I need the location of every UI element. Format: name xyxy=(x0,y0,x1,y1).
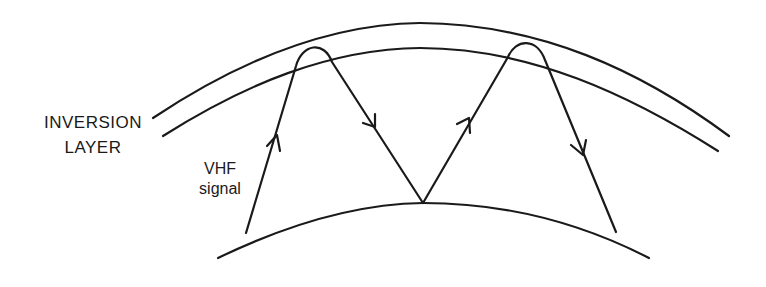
inversion-layer-lower-boundary xyxy=(163,48,718,151)
signal-label-line2: signal xyxy=(190,181,250,197)
signal-label-line1: VHF xyxy=(190,161,250,177)
earth-surface xyxy=(218,203,649,258)
vhf-signal-label: VHF signal xyxy=(190,161,250,197)
inversion-layer-label: INVERSION LAYER xyxy=(38,114,148,156)
inversion-label-line1: INVERSION xyxy=(38,114,148,131)
inversion-label-line2: LAYER xyxy=(38,139,148,156)
inversion-layer-upper-boundary xyxy=(153,23,729,136)
